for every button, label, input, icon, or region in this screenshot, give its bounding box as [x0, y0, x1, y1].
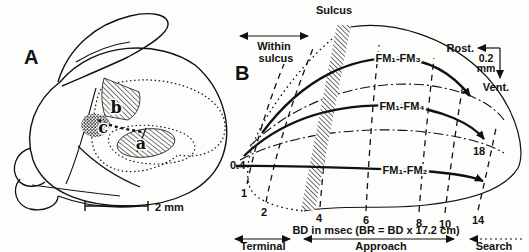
bd-tick-0.4: 0.4	[230, 159, 246, 171]
area-a-letter: a	[136, 134, 146, 153]
ventral-sulcus	[32, 185, 120, 196]
within-sulcus-annotation: Within sulcus	[240, 36, 308, 64]
iso-bd-contour-8	[419, 58, 434, 212]
phase-search: Search	[476, 240, 513, 252]
bd-tick-1: 1	[241, 187, 247, 199]
fm1-fm4-label: FM₁-FM₄	[379, 100, 424, 112]
phase-terminal: Terminal	[240, 240, 285, 252]
bd-tick-4: 4	[316, 212, 323, 224]
panel-b-label: B	[235, 62, 249, 84]
figure: A b c a 2 mm	[0, 0, 529, 252]
panel-b-fmfm-map: B FM₁-FM₃ FM₁-FM₄	[230, 0, 529, 252]
dorsal-lobe-outline	[58, 14, 168, 86]
delay-axis-curves	[236, 58, 484, 181]
within-sulcus-line1: Within	[257, 40, 291, 52]
iso-bd-contour-10	[445, 84, 463, 213]
scale-bar-label: 2 mm	[155, 201, 184, 213]
sulcus-label: Sulcus	[316, 4, 352, 16]
area-b-letter: b	[110, 98, 121, 117]
bd-tick-labels: 0.4 1 2 4 6 8 10 14 18	[230, 145, 485, 230]
iso-bd-contour-6	[366, 45, 379, 211]
bd-tick-2: 2	[261, 206, 267, 218]
orientation-scale-indicator: Rost. 0.2 mm Vent.	[447, 42, 510, 93]
phase-ranges: Terminal Approach Search	[235, 239, 522, 252]
scale-unit: mm	[477, 62, 496, 74]
bd-tick-18: 18	[473, 145, 485, 157]
within-sulcus-line2: sulcus	[259, 52, 294, 64]
rostral-label: Rost.	[447, 42, 475, 54]
fm1-fm2-label: FM₁-FM₂	[383, 164, 428, 176]
bd-tick-14: 14	[472, 214, 485, 226]
bd-axis-label: BD in msec (BR = BD x 17.2 cm)	[292, 224, 460, 236]
fm1-fm3-label: FM₁-FM₃	[375, 52, 420, 64]
area-c-letter: c	[98, 118, 108, 137]
panel-a-label: A	[24, 46, 38, 68]
boundary-fm3-fm4	[250, 84, 504, 146]
phase-approach: Approach	[355, 240, 407, 252]
dorsal-lobe-sulcus	[76, 42, 130, 62]
iso-bd-contour-14	[478, 128, 496, 210]
map-bottom-outline	[304, 152, 521, 211]
panel-a-brain-diagram: A b c a 2 mm	[0, 0, 230, 252]
ventral-label: Vent.	[483, 81, 509, 93]
